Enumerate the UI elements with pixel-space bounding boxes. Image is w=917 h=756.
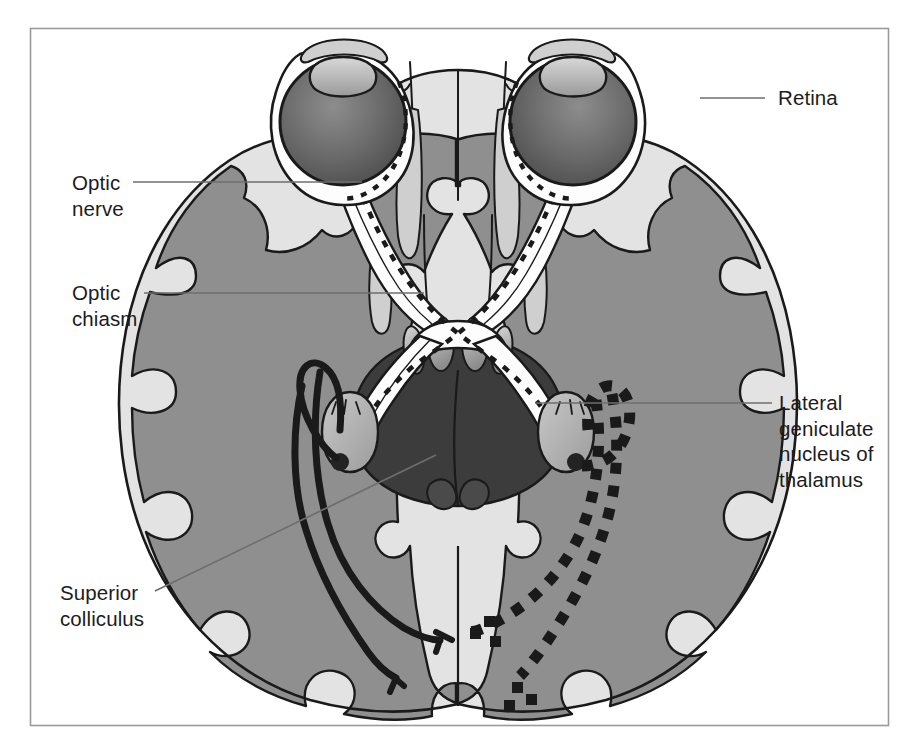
right-lens [540, 57, 607, 97]
label-superior-colliculus: Superior colliculus [60, 580, 144, 631]
midbrain [351, 336, 565, 509]
label-retina: Retina [778, 85, 838, 111]
superior-colliculus [427, 479, 456, 509]
label-optic-nerve: Optic nerve [72, 170, 124, 221]
visual-pathway-figure: Retina Optic nerve Optic chiasm Lateral … [0, 0, 917, 756]
superior-colliculus-right [460, 479, 489, 509]
left-lens [310, 57, 377, 97]
label-lateral-geniculate-nucleus: Lateral geniculate nucleus of thalamus [779, 390, 873, 492]
label-optic-chiasm: Optic chiasm [72, 280, 138, 331]
brain-diagram-svg [0, 0, 917, 756]
left-lateral-geniculate-nucleus [322, 392, 378, 472]
